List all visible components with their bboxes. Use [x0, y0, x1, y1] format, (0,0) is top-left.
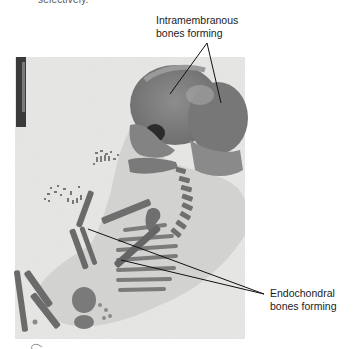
endochondral-label-line-2: bones forming	[270, 300, 337, 313]
intramembranous-label-line-2: bones forming	[156, 27, 238, 40]
endochondral-label: Endochondral bones forming	[270, 287, 337, 313]
intramembranous-label-line-1: Intramembranous	[156, 14, 238, 27]
pelvis	[72, 287, 96, 313]
intramembranous-label: Intramembranous bones forming	[156, 14, 238, 40]
endochondral-label-line-1: Endochondral	[270, 287, 337, 300]
page-mark	[32, 344, 42, 349]
